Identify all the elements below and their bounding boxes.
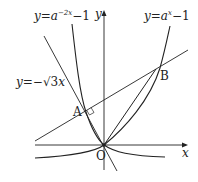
point-b-label: B bbox=[160, 69, 169, 83]
origin-point bbox=[102, 143, 106, 147]
curve-a-x bbox=[35, 26, 170, 158]
origin-label: O bbox=[96, 149, 106, 163]
point-a-label: A bbox=[72, 105, 82, 119]
curve-a-x-label: y=ax−1 bbox=[143, 9, 190, 23]
y-axis-label: y bbox=[94, 7, 102, 21]
diagram: y=a−2x−1 y=ax−1 y y=−√3x A B O x bbox=[0, 0, 198, 182]
line-ab bbox=[35, 50, 188, 141]
curve-a-neg2x-label: y=a−2x−1 bbox=[33, 9, 90, 23]
y-axis-arrow-icon bbox=[102, 10, 107, 16]
x-axis-label: x bbox=[182, 146, 189, 160]
segment-ob bbox=[104, 69, 156, 145]
curve-a-neg2x bbox=[72, 24, 165, 157]
line-neg-sqrt3x bbox=[44, 36, 117, 171]
line-label: y=−√3x bbox=[15, 75, 65, 89]
